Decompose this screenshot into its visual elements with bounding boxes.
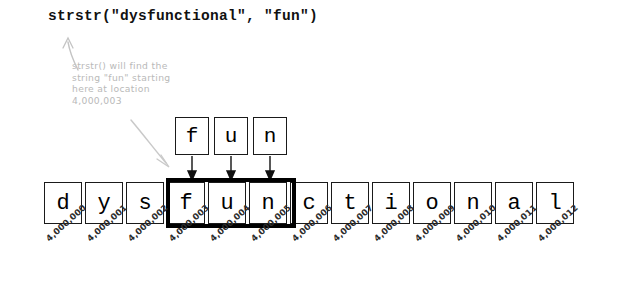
needle-cell: n (253, 117, 287, 155)
needle-cell: f (175, 117, 209, 155)
annotation-note: strstr() will find the string "fun" star… (72, 60, 222, 106)
arrow-down-icon (188, 156, 274, 180)
strstr-diagram: strstr("dysfunctional", "fun") strstr() … (0, 0, 621, 291)
needle-string-row: f u n (175, 117, 287, 155)
needle-cell: u (214, 117, 248, 155)
code-expression: strstr("dysfunctional", "fun") (48, 8, 318, 24)
curved-arrow-down-right-icon (131, 120, 169, 167)
address-label-row: 4,000,000 4,000,001 4,000,002 4,000,003 … (44, 236, 604, 291)
